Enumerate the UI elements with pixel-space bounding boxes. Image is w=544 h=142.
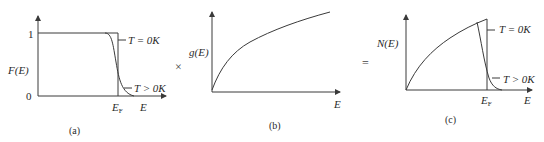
panel-b: g(E) E (b) (189, 12, 341, 132)
panel-c: N(E) T = 0K T > 0K EF E (c) (376, 15, 535, 126)
curve-label-tpos: T > 0K (134, 82, 166, 94)
times-operator: × (175, 60, 182, 74)
curve-t0 (406, 19, 487, 90)
density-of-states-curve (212, 12, 330, 90)
equals-operator: = (362, 56, 369, 70)
y-axis-label: g(E) (189, 46, 209, 59)
x-axis-label: E (139, 101, 147, 113)
x-axis-label: E (333, 98, 341, 110)
fermi-energy-label: EF (480, 94, 492, 108)
caption-b: (b) (269, 120, 281, 132)
panel-a: 1 0 F(E) T = 0K T > 0K EF E (a) (7, 16, 166, 137)
x-axis-label: E (523, 94, 531, 106)
y-tick-1: 1 (28, 28, 34, 40)
y-axis-label: N(E) (376, 37, 399, 50)
fermi-energy-label: EF (111, 101, 123, 115)
caption-a: (a) (69, 125, 80, 137)
step-curve-t0 (38, 33, 118, 96)
curve-label-tpos: T > 0K (503, 73, 535, 85)
y-tick-0: 0 (26, 90, 32, 102)
curve-label-t0: T = 0K (128, 34, 160, 46)
caption-c: (c) (445, 114, 456, 126)
curve-label-t0: T = 0K (499, 23, 531, 35)
fermi-dirac-figure: 1 0 F(E) T = 0K T > 0K EF E (a) × g(E) E… (0, 0, 544, 142)
y-axis-label: F(E) (7, 64, 29, 77)
